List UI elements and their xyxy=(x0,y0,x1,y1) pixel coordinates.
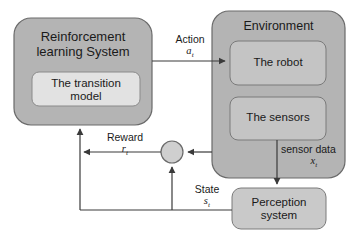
perception-system-box[interactable] xyxy=(232,188,326,229)
action-edge-symbol: at xyxy=(160,45,220,59)
robot-box[interactable] xyxy=(230,41,326,85)
state-edge-label: State st xyxy=(182,183,232,209)
action-edge-label: Action at xyxy=(160,33,220,59)
action-edge-text: Action xyxy=(175,33,204,45)
reward-edge-symbol: rt xyxy=(95,143,155,157)
reward-edge-text: Reward xyxy=(107,131,143,143)
sensor-data-edge-label: sensor data xt xyxy=(281,143,347,169)
sensors-box[interactable] xyxy=(230,97,326,140)
sensor-data-edge-symbol: xt xyxy=(281,155,347,169)
state-edge-text: State xyxy=(195,183,220,195)
sensor-data-edge-text: sensor data xyxy=(281,143,336,155)
state-edge-symbol: st xyxy=(182,195,232,209)
diagram-canvas: Reinforcement learning System The transi… xyxy=(0,0,350,239)
transition-model-box[interactable] xyxy=(32,72,140,106)
junction-node[interactable] xyxy=(161,141,183,163)
reward-edge-label: Reward rt xyxy=(95,131,155,157)
